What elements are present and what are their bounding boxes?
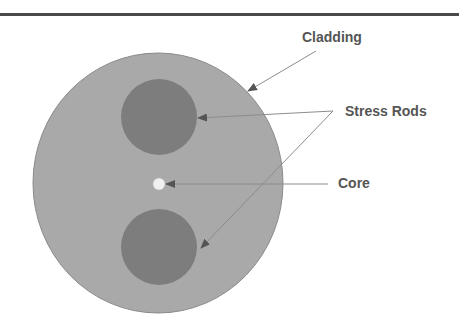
stress-rods-label: Stress Rods [345,103,427,119]
stress-rod-bottom [121,209,197,285]
fiber-cross-section-diagram [0,0,459,331]
stress-rod-top [121,79,197,155]
cladding-leader-line [248,51,316,91]
cladding-label: Cladding [302,29,362,45]
core-circle [153,178,165,190]
core-label: Core [338,175,370,191]
